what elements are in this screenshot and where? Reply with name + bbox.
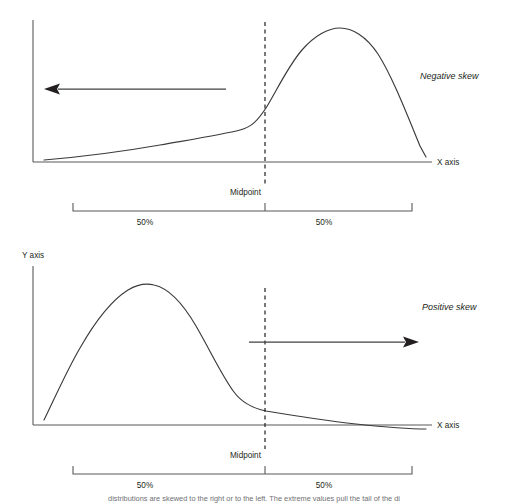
skew-diagram-svg: X axis Negative skew Midpoint 50% 50% Y … bbox=[0, 0, 508, 504]
bottom-left-percent-label: 50% bbox=[137, 481, 153, 490]
bottom-x-axis-label: X axis bbox=[437, 421, 459, 430]
bottom-distribution-curve bbox=[44, 284, 426, 429]
top-left-arrow bbox=[44, 84, 226, 95]
bottom-right-arrow bbox=[249, 337, 419, 348]
bottom-percent-bracket bbox=[73, 466, 412, 474]
arrow-head-right-icon bbox=[403, 337, 419, 348]
positive-skew-label: Positive skew bbox=[422, 302, 477, 312]
negative-skew-chart: X axis Negative skew Midpoint 50% 50% bbox=[33, 20, 479, 227]
top-distribution-curve bbox=[44, 28, 426, 160]
top-right-percent-label: 50% bbox=[316, 218, 332, 227]
bottom-y-axis-label: Y axis bbox=[22, 251, 44, 260]
positive-skew-chart: Y axis X axis Positive skew Midpoint bbox=[22, 251, 477, 490]
top-left-percent-label: 50% bbox=[137, 218, 153, 227]
arrow-head-left-icon bbox=[44, 84, 60, 95]
bottom-midpoint-label: Midpoint bbox=[230, 451, 262, 460]
top-midpoint-label: Midpoint bbox=[230, 188, 262, 197]
negative-skew-label: Negative skew bbox=[420, 71, 479, 81]
top-x-axis-label: X axis bbox=[437, 158, 459, 167]
figure-caption: distributions are skewed to the right or… bbox=[0, 494, 508, 504]
skewness-figure: X axis Negative skew Midpoint 50% 50% Y … bbox=[0, 0, 508, 504]
top-percent-bracket bbox=[73, 203, 412, 211]
bottom-right-percent-label: 50% bbox=[316, 481, 332, 490]
